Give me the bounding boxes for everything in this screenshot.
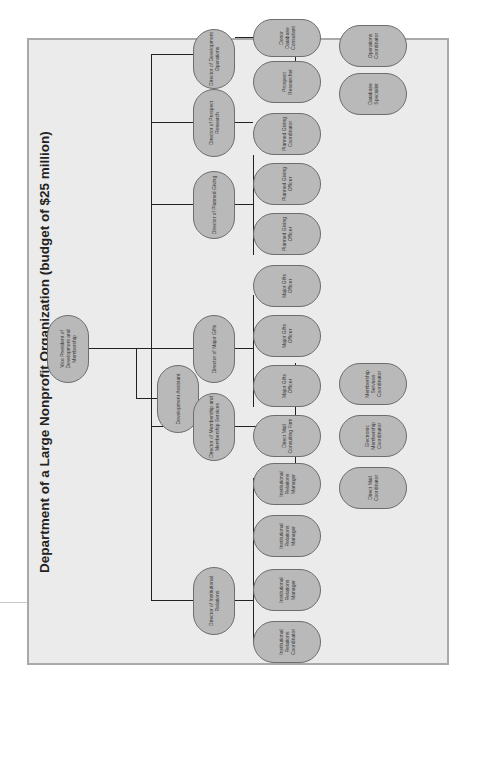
node-vp-development: Vice President of Development and Member… (47, 315, 89, 383)
node-prospect-researcher: Prospect Researcher (253, 61, 321, 103)
connector (235, 600, 253, 601)
node-director-major-gifts: Director of Major Gifts (193, 315, 235, 383)
node-ir-manager: Institutional Relations Manager (253, 515, 321, 557)
node-planned-giving-officer: Planned Giving Officer (253, 163, 321, 205)
node-director-institutional-relations: Director of Institutional Relations (193, 567, 235, 635)
node-director-membership: Director of Membership and Membership Se… (193, 393, 235, 461)
node-major-gifts-officer: Major Gifts Officer (253, 265, 321, 307)
org-chart-page: Department of a Large Nonprofit Organiza… (27, 38, 449, 665)
node-ir-manager: Institutional Relations Manager (253, 463, 321, 505)
node-planned-giving-coordinator: Planned Giving Coordinator (253, 113, 321, 155)
connector (235, 122, 253, 123)
node-direct-mail-coordinator: Direct Mail Coordinator (339, 467, 407, 509)
node-director-development-operations: Director of Development Operations (193, 29, 235, 89)
node-donor-database-consultant: Donor Database Consultant (253, 19, 321, 57)
node-director-prospect-research: Director of Prospect Research (193, 89, 235, 157)
node-database-specialist: Database Specialist (339, 73, 407, 115)
connector (151, 122, 193, 123)
node-ir-manager: Institutional Relations Manager (253, 569, 321, 611)
node-major-gifts-officer: Major Gifts Officer (253, 365, 321, 407)
connector (151, 54, 193, 55)
node-membership-services-coordinator: Membership Services Coordinator (339, 363, 407, 405)
director-bus (151, 54, 152, 601)
node-electronic-membership-coordinator: Electronic Membership Coordinator (339, 415, 407, 457)
connector (253, 478, 254, 643)
connector (235, 204, 253, 205)
node-operations-coordinator: Operations Coordinator (339, 25, 407, 67)
connector (136, 348, 137, 399)
node-major-gifts-officer: Major Gifts Officer (253, 315, 321, 357)
node-director-planned-giving: Director of Planned Giving (193, 171, 235, 239)
connector (136, 348, 193, 349)
connector (235, 348, 253, 349)
node-ir-coordinator: Institutional Relations Coordinator (253, 621, 321, 663)
node-direct-mail-consulting-firm: Direct Mail Consulting Firm (253, 415, 321, 457)
connector (87, 348, 137, 349)
connector (151, 204, 193, 205)
node-planned-giving-officer: Planned Giving Officer (253, 213, 321, 255)
connector (151, 600, 193, 601)
connector (136, 398, 158, 399)
